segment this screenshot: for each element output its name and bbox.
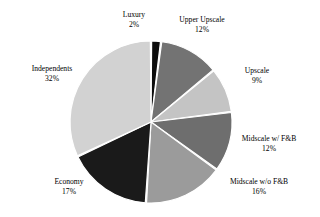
slice-label-upper-upscale: Upper Upscale 12% <box>156 15 248 35</box>
slice-label-upper-upscale-percent: 12% <box>156 25 248 35</box>
slice-label-economy-name: Economy <box>30 177 108 187</box>
slice-label-midscale-with-fb-name: Midscale w/ F&B <box>221 134 317 144</box>
slice-label-independents-name: Independents <box>6 64 98 74</box>
slice-label-midscale-without-fb-percent: 16% <box>205 187 313 197</box>
pie-chart-figure: Luxury 2% Upper Upscale 12% Upscale 9% M… <box>0 0 320 217</box>
slice-label-economy-percent: 17% <box>30 187 108 197</box>
slice-label-upscale-name: Upscale <box>222 66 292 76</box>
slice-label-midscale-without-fb-name: Midscale w/o F&B <box>205 177 313 187</box>
slice-label-independents-percent: 32% <box>6 74 98 84</box>
slice-label-midscale-with-fb: Midscale w/ F&B 12% <box>221 134 317 154</box>
slice-label-upscale-percent: 9% <box>222 76 292 86</box>
slice-label-upper-upscale-name: Upper Upscale <box>156 15 248 25</box>
slice-label-independents: Independents 32% <box>6 64 98 84</box>
slice-label-midscale-with-fb-percent: 12% <box>221 144 317 154</box>
slice-label-economy: Economy 17% <box>30 177 108 197</box>
slice-label-midscale-without-fb: Midscale w/o F&B 16% <box>205 177 313 197</box>
slice-label-upscale: Upscale 9% <box>222 66 292 86</box>
